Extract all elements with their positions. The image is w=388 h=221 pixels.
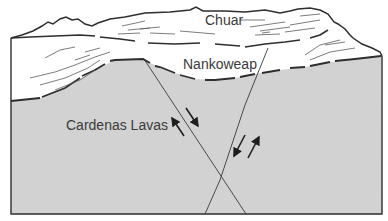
chuar-nankoweap-contact bbox=[11, 30, 328, 47]
cardenas-lavas-unit bbox=[11, 56, 382, 214]
cross-section-diagram bbox=[0, 0, 388, 221]
unit-label-nankoweap: Nankoweap bbox=[183, 56, 257, 72]
unit-label-chuar: Chuar bbox=[205, 12, 243, 28]
unit-label-cardenas-lavas: Cardenas Lavas bbox=[66, 117, 168, 133]
